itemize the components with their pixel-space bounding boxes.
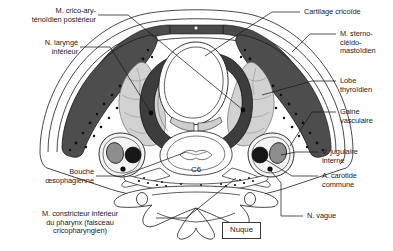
anatomical-figure-page: M. crico-ary- ténoïdien postérieur N. la… bbox=[0, 0, 393, 251]
label-internal-jugular-vein: V. jugulaire interne bbox=[322, 148, 392, 165]
label-vagus-nerve: N. vague bbox=[307, 212, 367, 221]
nuchal-midline-vessel bbox=[194, 26, 198, 30]
label-esophageal-mouth: Bouche œsophagienne bbox=[2, 168, 94, 185]
common-carotid-artery-right bbox=[252, 147, 268, 163]
vagus-nerve-right bbox=[267, 166, 272, 171]
label-inferior-laryngeal-nerve: N. laryngé inférieur bbox=[2, 39, 78, 56]
transverse-foramen-left bbox=[137, 193, 148, 206]
vascular-sheath-left-group bbox=[99, 133, 145, 177]
label-sternocleidomastoid: M. sterno- cléido- mastoïdien bbox=[340, 30, 392, 56]
label-crico-arytenoid-posterior: M. crico-ary- ténoïdien postérieur bbox=[2, 7, 96, 24]
leader-scm bbox=[292, 34, 336, 52]
label-cricoid-cartilage: Cartilage cricoïde bbox=[304, 8, 392, 17]
vascular-sheath-right-group bbox=[248, 133, 294, 177]
region-title-box-nuque: Nuque bbox=[222, 222, 261, 239]
label-vascular-sheath: Gaine vasculaire bbox=[340, 108, 392, 125]
common-carotid-artery-left bbox=[125, 147, 141, 163]
label-thyroid-lobe: Lobe thyroïdien bbox=[340, 77, 392, 94]
vagus-nerve-left bbox=[120, 166, 125, 171]
label-inferior-pharyngeal-constrictor: M. constricteur inférieur du pharynx (fa… bbox=[6, 210, 154, 236]
transverse-foramen-right bbox=[245, 193, 256, 206]
leader-vagus-nerve bbox=[271, 171, 303, 216]
label-common-carotid-artery: A. carotide commune bbox=[322, 172, 392, 189]
label-c6-vertebra: C6 bbox=[184, 165, 208, 174]
